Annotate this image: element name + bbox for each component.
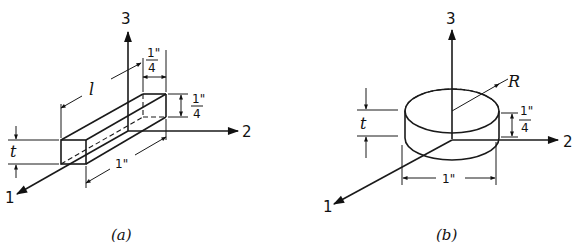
rectangular-bar <box>61 94 166 164</box>
panel-b: 3 2 1 R 1" 4 t 1" <box>323 10 573 244</box>
dimension-width: 1" <box>86 119 166 188</box>
height-denominator-b: 4 <box>521 121 529 135</box>
diameter-label: 1" <box>442 172 455 186</box>
axis-1-b <box>334 140 452 204</box>
dimension-diameter: 1" <box>402 142 496 186</box>
height-denominator: 4 <box>193 107 201 121</box>
dimension-top-width: 1" 4 <box>143 46 166 92</box>
caption-b: (b) <box>436 226 457 244</box>
width-label-a: 1" <box>115 157 128 171</box>
axis-3-label-b: 3 <box>446 10 456 28</box>
height-numerator: 1" <box>192 92 205 106</box>
axis-1-label-a: 1 <box>5 189 15 207</box>
radius-label: R <box>507 72 520 91</box>
caption-a: (a) <box>111 226 132 244</box>
panel-a: 3 2 1 l <box>5 10 252 244</box>
axis-2-label-a: 2 <box>242 123 252 141</box>
thickness-label-b: t <box>360 114 367 133</box>
length-label: l <box>89 80 94 99</box>
dimension-thickness: t <box>8 126 59 178</box>
dimension-height-b: 1" 4 <box>501 104 533 137</box>
axis-3-label-a: 3 <box>121 10 131 28</box>
dimension-length: l <box>61 58 143 138</box>
axis-2-label-b: 2 <box>563 133 573 151</box>
top-width-denominator: 4 <box>148 61 156 75</box>
height-numerator-b: 1" <box>520 104 533 118</box>
top-width-numerator: 1" <box>147 46 160 60</box>
dimension-height: 1" 4 <box>168 92 205 121</box>
thickness-label-a: t <box>10 142 17 161</box>
radius-arrow <box>452 84 499 111</box>
axis-1-label-b: 1 <box>323 198 333 216</box>
dimension-thickness-b: t <box>357 88 398 158</box>
figure-canvas: 3 2 1 l <box>0 0 583 252</box>
